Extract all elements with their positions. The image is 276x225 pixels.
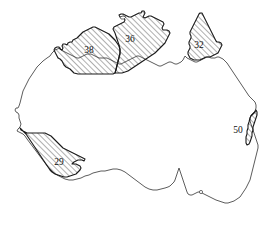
region-50-label: 50 (233, 125, 243, 135)
map-canvas: 38 36 32 50 29 (0, 0, 276, 225)
region-32-group[interactable]: 32 (188, 13, 222, 60)
region-38-label: 38 (84, 45, 94, 55)
coastline-group (15, 48, 258, 203)
southern-island-dot (199, 190, 202, 193)
australia-map-figure: 38 36 32 50 29 (0, 0, 276, 225)
region-36-label: 36 (125, 34, 135, 44)
region-32-label: 32 (194, 40, 204, 50)
region-29-label: 29 (54, 157, 64, 167)
australia-coastline (15, 48, 258, 203)
region-32-shape[interactable] (188, 13, 222, 60)
